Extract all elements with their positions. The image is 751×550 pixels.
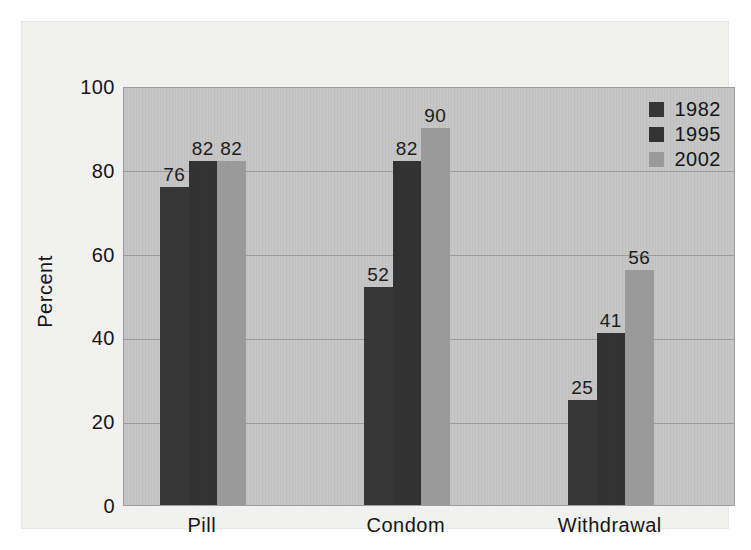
y-axis-tick-label: 100 xyxy=(45,76,115,99)
legend-label-2002: 2002 xyxy=(675,148,722,171)
legend-item-2002: 2002 xyxy=(649,147,722,172)
bar-condom-1995 xyxy=(393,161,422,505)
bar-value-label: 90 xyxy=(405,105,465,127)
x-axis-label-withdrawal: Withdrawal xyxy=(558,514,662,537)
plot-area: 768282528290254156 198219952002 xyxy=(123,87,735,506)
bar-value-label: 76 xyxy=(144,164,204,186)
legend-swatch-2002 xyxy=(649,152,664,167)
figure-panel: Percent 020406080100 768282528290254156 … xyxy=(22,22,728,528)
bar-withdrawal-1995 xyxy=(597,333,626,505)
y-axis-tick-label: 80 xyxy=(45,159,115,182)
legend-item-1995: 1995 xyxy=(649,122,722,147)
legend-swatch-1995 xyxy=(649,127,664,142)
x-axis-label-pill: Pill xyxy=(187,514,216,537)
legend-label-1982: 1982 xyxy=(675,98,722,121)
y-axis-ticks: 020406080100 xyxy=(28,87,115,506)
bar-withdrawal-1982 xyxy=(568,400,597,505)
bar-value-label: 41 xyxy=(581,310,641,332)
bar-value-label: 25 xyxy=(552,377,612,399)
bar-pill-1982 xyxy=(160,187,189,505)
y-axis-tick-label: 0 xyxy=(45,495,115,518)
legend-swatch-1982 xyxy=(649,102,664,117)
bar-value-label: 82 xyxy=(377,138,437,160)
x-axis-labels: PillCondomWithdrawal xyxy=(123,514,735,550)
bar-condom-1982 xyxy=(364,287,393,505)
bar-condom-2002 xyxy=(421,128,450,505)
bar-pill-2002 xyxy=(217,161,246,505)
bar-value-label: 56 xyxy=(609,247,669,269)
bar-value-label: 82 xyxy=(201,138,261,160)
legend-item-1982: 1982 xyxy=(649,97,722,122)
y-axis-tick-label: 20 xyxy=(45,411,115,434)
bar-value-label: 52 xyxy=(348,264,408,286)
legend: 198219952002 xyxy=(649,97,722,172)
y-axis-tick-label: 60 xyxy=(45,243,115,266)
y-axis-tick-label: 40 xyxy=(45,327,115,350)
x-axis-label-condom: Condom xyxy=(366,514,445,537)
bar-pill-1995 xyxy=(189,161,218,505)
legend-label-1995: 1995 xyxy=(675,123,722,146)
bar-withdrawal-2002 xyxy=(625,270,654,505)
